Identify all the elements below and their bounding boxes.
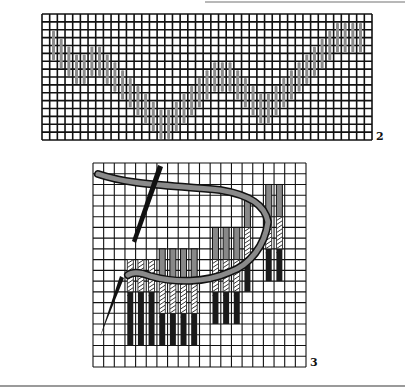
figure-label-2: 2 [376, 130, 384, 143]
needle-icon [132, 165, 163, 243]
bottom-rule [0, 385, 405, 387]
figure-label-3: 3 [310, 356, 318, 369]
figure-2-grid [0, 0, 405, 388]
stitch-row-2 [52, 23, 362, 139]
canvas-grid-3 [93, 163, 306, 367]
